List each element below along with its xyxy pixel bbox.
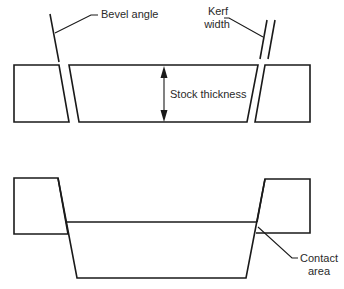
bottom-right-piece (256, 179, 310, 233)
bevel-angle-leader (55, 15, 98, 33)
contact-area-label-line1: Contact (299, 252, 339, 265)
kerf-line-right (268, 20, 275, 59)
arrow-head-down-icon (161, 110, 168, 122)
top-left-piece (14, 65, 69, 122)
bottom-view (14, 178, 310, 278)
bevel-angle-label: Bevel angle (101, 8, 159, 21)
arrow-head-up-icon (161, 66, 168, 78)
bottom-middle-piece-outline (58, 178, 265, 278)
contact-area-leader (258, 227, 298, 258)
kerf-width-label-line1: Kerf (203, 5, 233, 18)
bevel-angle-line (50, 14, 59, 62)
kerf-line-left (260, 20, 267, 59)
stock-thickness-label: Stock thickness (170, 88, 246, 101)
top-right-piece (255, 65, 310, 122)
kerf-width-label-line2: width (201, 18, 233, 31)
contact-area-label-line2: area (299, 265, 339, 278)
bevel-kerf-diagram: Bevel angle Kerf width Stock thickness C… (0, 0, 344, 289)
top-view (14, 14, 310, 122)
